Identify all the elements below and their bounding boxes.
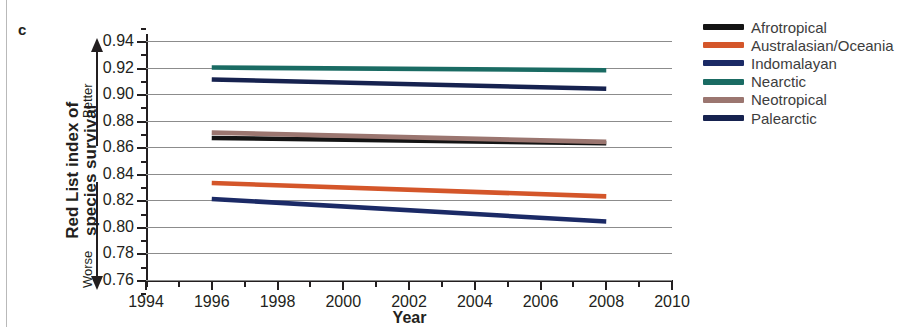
x-tick-major: [474, 282, 476, 290]
y-tick-major: [137, 174, 146, 176]
x-tick-major: [408, 282, 410, 290]
series-lines: [146, 41, 672, 280]
y-tick-label: 0.78: [74, 245, 134, 261]
legend-item[interactable]: Nearctic: [703, 73, 901, 91]
x-tick-major: [211, 282, 213, 290]
x-tick-minor: [375, 282, 377, 287]
panel-label: c: [18, 22, 26, 37]
y-tick-major: [137, 253, 146, 255]
legend-color-swatch: [703, 24, 744, 30]
y-tick-label: 0.76: [74, 272, 134, 288]
series-line: [212, 199, 607, 222]
y-tick-major: [137, 94, 146, 96]
x-tick-minor: [572, 282, 574, 287]
figure-panel-c: c Red List index of species survival Bet…: [0, 0, 901, 327]
y-tick-label: 0.86: [74, 139, 134, 155]
legend-label: Neotropical: [751, 92, 827, 107]
x-tick-minor: [178, 282, 180, 287]
series-line: [212, 68, 607, 71]
y-tick-major: [137, 147, 146, 149]
gridline: [146, 280, 672, 281]
page-edge-rule: [6, 0, 7, 327]
legend-item[interactable]: Neotropical: [703, 91, 901, 109]
legend-item[interactable]: Afrotropical: [703, 18, 901, 36]
series-line: [212, 80, 607, 89]
legend: AfrotropicalAustralasian/OceaniaIndomala…: [703, 18, 901, 127]
legend-color-swatch: [703, 97, 744, 103]
y-tick-minor: [141, 28, 146, 30]
x-tick-minor: [441, 282, 443, 287]
legend-label: Australasian/Oceania: [751, 38, 894, 53]
plot-area: [146, 41, 672, 280]
legend-color-swatch: [703, 60, 744, 66]
x-tick-major: [342, 282, 344, 290]
legend-item[interactable]: Indomalayan: [703, 54, 901, 72]
y-tick-major: [137, 121, 146, 123]
x-tick-major: [605, 282, 607, 290]
legend-color-swatch: [703, 79, 744, 85]
y-tick-label: 0.90: [74, 86, 134, 102]
y-tick-major: [137, 200, 146, 202]
x-axis-title: Year: [146, 309, 673, 327]
legend-color-swatch: [703, 42, 744, 48]
x-tick-major: [540, 282, 542, 290]
y-tick-label: 0.94: [74, 33, 134, 49]
x-tick-minor: [638, 282, 640, 287]
y-tick-major: [137, 41, 146, 43]
x-tick-minor: [507, 282, 509, 287]
y-tick-major: [137, 227, 146, 229]
series-line: [212, 183, 607, 196]
legend-color-swatch: [703, 115, 744, 121]
x-tick-major: [145, 282, 147, 290]
legend-label: Palearctic: [751, 111, 817, 126]
legend-label: Nearctic: [751, 74, 806, 89]
y-tick-label: 0.88: [74, 113, 134, 129]
y-tick-label: 0.84: [74, 166, 134, 182]
legend-item[interactable]: Palearctic: [703, 109, 901, 127]
x-tick-minor: [244, 282, 246, 287]
y-tick-major: [137, 68, 146, 70]
legend-item[interactable]: Australasian/Oceania: [703, 36, 901, 54]
x-tick-minor: [309, 282, 311, 287]
y-tick-label: 0.92: [74, 60, 134, 76]
legend-label: Indomalayan: [751, 56, 837, 71]
x-tick-major: [277, 282, 279, 290]
x-tick-major: [671, 282, 673, 290]
y-tick-label: 0.80: [74, 219, 134, 235]
y-tick-label: 0.82: [74, 192, 134, 208]
legend-label: Afrotropical: [751, 20, 827, 35]
